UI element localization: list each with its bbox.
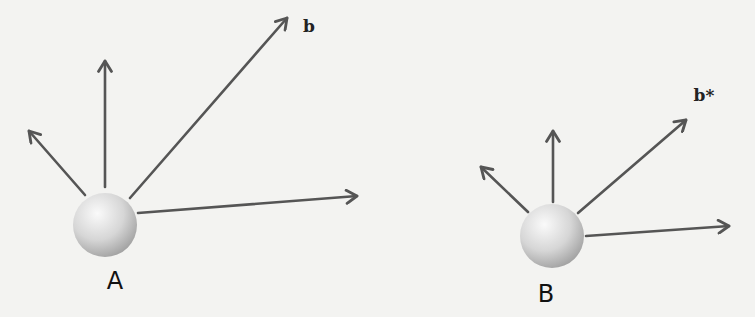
arrow-b-star-icon [578,120,686,213]
arrow-upper-left-icon [481,167,528,212]
arrow-upper-left-icon [29,131,85,195]
sphere-a-icon [73,193,137,257]
diagram-canvas: Ab Bb* [0,0,755,317]
arrow-right-icon [586,226,729,236]
sphere-b-icon [520,204,584,268]
figure-label: B [538,280,554,308]
arrow-right-icon [138,196,357,213]
vector-label: b [303,16,315,36]
figure-label: A [107,267,124,295]
figure-a: Ab [29,16,357,295]
vector-label: b* [694,85,715,105]
arrow-b-icon [130,18,287,198]
figure-b: Bb* [481,85,729,308]
